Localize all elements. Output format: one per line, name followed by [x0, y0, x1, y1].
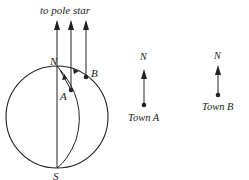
pole-star-label: to pole star — [40, 4, 91, 16]
town-a-label: Town A — [128, 112, 160, 123]
south-pole-label: S — [53, 170, 59, 180]
arrowhead-icon — [83, 20, 89, 30]
pole-star-rays — [54, 20, 89, 90]
arrowhead-icon — [54, 20, 60, 30]
point-b-dot — [84, 75, 89, 80]
point-b-label: B — [91, 67, 98, 79]
diagram-canvas: to pole star N S A B N Town A — [0, 0, 249, 180]
point-a-dot — [69, 88, 74, 93]
town-a-compass: N Town A — [128, 51, 160, 123]
globe: N S A B — [6, 55, 108, 180]
a-to-n-line — [60, 70, 71, 90]
arrowhead-icon — [141, 69, 147, 79]
north-pole-label: N — [49, 55, 58, 67]
arrowhead-icon — [215, 65, 221, 75]
town-a-north-label: N — [139, 51, 148, 62]
town-b-compass: N Town B — [202, 50, 234, 112]
town-b-dot — [216, 93, 221, 98]
arrowhead-icon — [68, 20, 74, 30]
town-b-north-label: N — [213, 50, 222, 61]
town-a-dot — [142, 103, 147, 108]
town-b-label: Town B — [202, 101, 234, 112]
meridian-arc — [57, 66, 79, 168]
point-a-label: A — [59, 90, 67, 102]
